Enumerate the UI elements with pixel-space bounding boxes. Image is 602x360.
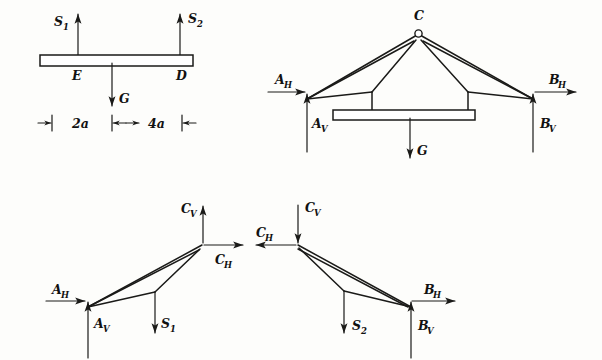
left-fbd-rafter-inner [88,250,199,307]
label-bh-sub: H [557,80,567,90]
panel-1-suspended-beam [38,14,196,131]
label-point-e: E [71,68,82,83]
right-fbd-rafter-outer [298,245,411,307]
label-ah-left-sub: H [60,290,70,300]
dim-label-4a: 4a [148,116,165,131]
label-point-d: D [175,68,187,83]
right-fbd-rafter-inner [298,249,408,307]
label-av-sub: V [321,124,329,134]
label-s1: S [54,14,63,29]
label-s2: S [188,11,197,26]
label-bv-sub: V [549,124,557,134]
left-fbd-tie-bottom [88,292,155,307]
dimension-line-group [38,115,196,131]
left-fbd-chord-lower [155,249,200,292]
label-s2-right: S [352,318,361,333]
label-s2-sub: 2 [196,19,203,29]
panel-4-labels: C V C H S 2 B H B V [256,200,442,336]
label-weight-g-truss: G [417,143,428,158]
rafter-left-inner [307,41,414,99]
panel-3-left-half-fbd [46,206,243,358]
rafter-right-inner [423,41,533,99]
label-s1-sub: 1 [63,22,69,32]
label-cv-left-sub: V [190,209,198,219]
dim-label-2a: 2a [71,116,89,131]
beam-body [40,55,193,66]
figure-canvas: S 1 S 2 E D G 2a 4a C A H A V B H B V G … [0,0,602,360]
chord-right-lower [421,40,468,92]
figure-sheet: S 1 S 2 E D G 2a 4a C A H A V B H B V G … [0,0,602,360]
pin-joint-c [415,30,422,37]
panel-1-labels: S 1 S 2 E D G 2a 4a [54,11,203,131]
label-cv-right-sub: V [314,208,322,218]
label-weight-g: G [119,91,130,106]
label-apex-c: C [414,8,424,23]
panel-2-whole-truss [268,30,576,158]
label-ch-right-sub: H [264,233,274,243]
label-bv-right-sub: V [427,326,435,336]
platform-beam [333,110,475,120]
right-fbd-tie-bottom [344,291,411,307]
label-ch-left-sub: H [223,260,233,270]
label-bh-right-sub: H [432,290,442,300]
label-ah-sub: H [283,80,293,90]
panel-3-labels: C V C H A H A V S 1 [51,201,233,334]
label-s2-right-sub: 2 [360,326,367,336]
label-s1-left-sub: 1 [170,324,176,334]
label-s1-left: S [161,316,170,331]
label-av-left-sub: V [103,324,111,334]
